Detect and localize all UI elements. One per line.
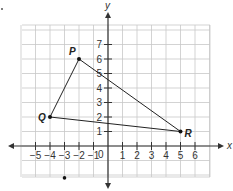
x-axis-arrow-right-icon (218, 143, 224, 149)
tick-labels: −5−4−3−2−112345612345670 (30, 39, 198, 161)
problem-bullet (1, 8, 3, 10)
y-axis-arrow-up-icon (105, 12, 111, 18)
y-axis-label: y (104, 0, 111, 11)
x-axis-label: x (226, 140, 233, 151)
vertex-p (77, 57, 81, 61)
x-tick-label: 5 (178, 150, 184, 161)
x-tick-label: 3 (149, 150, 155, 161)
y-tick-label: 4 (96, 83, 102, 94)
origin-label: 0 (98, 149, 104, 160)
x-tick-label: 2 (134, 150, 140, 161)
vertex-label-p: P (69, 46, 76, 57)
x-tick-label: −2 (73, 150, 85, 161)
x-tick-label: 4 (163, 150, 169, 161)
stray-dot (63, 176, 67, 180)
y-tick-label: 1 (96, 126, 102, 137)
triangle-outline (50, 59, 181, 132)
y-axis-arrow-down-icon (105, 183, 111, 189)
y-tick-label: 2 (96, 112, 102, 123)
vertex-r (179, 130, 183, 134)
coordinate-plane: xy −5−4−3−2−112345612345670 PQR (0, 0, 233, 191)
y-tick-label: 7 (96, 39, 102, 50)
vertex-label-q: Q (38, 112, 46, 123)
x-tick-label: −5 (30, 150, 42, 161)
x-tick-label: −4 (44, 150, 56, 161)
y-tick-label: 3 (96, 97, 102, 108)
x-axis-arrow-left-icon (8, 143, 14, 149)
triangle-pqr (50, 59, 181, 132)
x-tick-label: −3 (59, 150, 71, 161)
vertex-q (48, 115, 52, 119)
x-tick-label: 6 (192, 150, 198, 161)
x-tick-label: 1 (120, 150, 126, 161)
vertex-label-r: R (185, 128, 193, 139)
y-tick-label: 6 (96, 54, 102, 65)
